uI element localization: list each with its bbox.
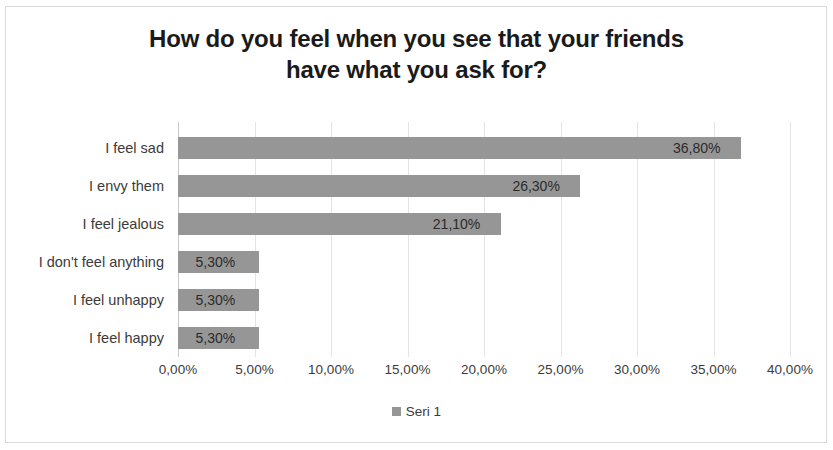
legend-label: Seri 1 [406,404,441,419]
bar-row[interactable]: 5,30% [178,327,790,349]
bar-value-label: 5,30% [196,327,236,349]
category-label: I feel jealous [83,213,164,235]
bar-row[interactable]: 21,10% [178,213,790,235]
category-label: I feel unhappy [73,289,164,311]
bar-row[interactable]: 26,30% [178,175,790,197]
bar-value-label: 21,10% [433,213,480,235]
category-axis: I feel sadI envy themI feel jealousI don… [8,122,171,357]
value-tick-label: 20,00% [461,362,507,377]
value-tick-label: 40,00% [767,362,813,377]
legend-swatch-icon [392,407,401,416]
chart-container: How do you feel when you see that your f… [0,0,833,450]
bar-value-label: 26,30% [512,175,559,197]
bar-row[interactable]: 5,30% [178,289,790,311]
bar-row[interactable]: 36,80% [178,137,790,159]
bar[interactable] [178,137,741,159]
value-tick-label: 15,00% [385,362,431,377]
value-tick-label: 25,00% [538,362,584,377]
bar-value-label: 5,30% [196,289,236,311]
category-label: I don't feel anything [39,251,164,273]
category-label: I envy them [89,175,164,197]
value-tick-label: 10,00% [308,362,354,377]
chart-legend: Seri 1 [0,404,833,419]
value-tick-label: 30,00% [614,362,660,377]
value-tick-label: 0,00% [159,362,197,377]
plot-area: 36,80%26,30%21,10%5,30%5,30%5,30% [178,122,790,357]
chart-title: How do you feel when you see that your f… [60,24,773,85]
bar-row[interactable]: 5,30% [178,251,790,273]
chart-title-line-2: have what you ask for? [60,55,773,86]
category-label: I feel happy [89,327,164,349]
bar-value-label: 36,80% [673,137,720,159]
value-tick-label: 35,00% [691,362,737,377]
chart-title-line-1: How do you feel when you see that your f… [60,24,773,55]
bar-value-label: 5,30% [196,251,236,273]
category-label: I feel sad [105,137,164,159]
value-axis: 0,00%5,00%10,00%15,00%20,00%25,00%30,00%… [178,362,790,384]
gridline [790,122,791,357]
value-tick-label: 5,00% [235,362,273,377]
